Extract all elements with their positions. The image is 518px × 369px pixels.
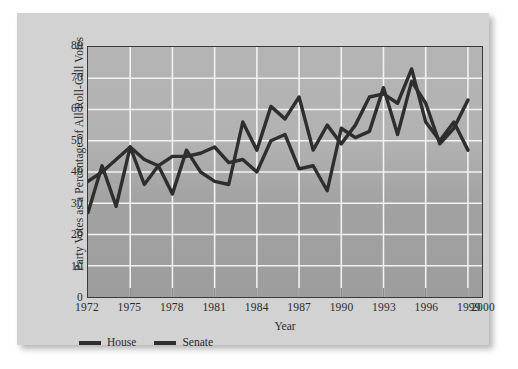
legend-line-swatch-icon <box>79 341 101 345</box>
x-tick-label: 1984 <box>245 302 269 314</box>
data-series-layer <box>88 47 482 297</box>
x-tick-label: 1972 <box>75 302 99 314</box>
x-tick-label: 1990 <box>330 302 354 314</box>
y-tick-label: 50 <box>49 135 83 147</box>
x-axis-title: Year <box>87 320 483 332</box>
chart-legend: HouseSenate <box>79 337 213 349</box>
x-tick-label: 2000 <box>471 302 495 314</box>
y-tick-label: 40 <box>49 166 83 178</box>
legend-item-senate: Senate <box>154 337 213 349</box>
x-tick-label: 1981 <box>202 302 226 314</box>
plot-area <box>87 46 483 298</box>
legend-item-house: House <box>79 337 136 349</box>
y-tick-label: 80 <box>49 40 83 52</box>
y-tick-label: 60 <box>49 103 83 115</box>
x-tick-label: 1993 <box>372 302 396 314</box>
y-tick-label: 20 <box>49 229 83 241</box>
figure-root: Party Votes as a Percentage of All Roll-… <box>0 0 518 369</box>
figure-card: Party Votes as a Percentage of All Roll-… <box>17 13 489 345</box>
y-tick-label: 10 <box>49 261 83 273</box>
x-axis-tick-labels: 1972197519781981198419871990199319961999… <box>87 302 507 320</box>
legend-label: House <box>107 337 136 349</box>
x-tick-label: 1996 <box>415 302 439 314</box>
series-line-senate <box>88 81 468 190</box>
legend-label: Senate <box>182 337 213 349</box>
x-tick-label: 1987 <box>287 302 311 314</box>
y-tick-label: 30 <box>49 198 83 210</box>
x-tick-label: 1978 <box>160 302 184 314</box>
x-tick-label: 1975 <box>118 302 142 314</box>
y-tick-label: 70 <box>49 72 83 84</box>
legend-line-swatch-icon <box>154 341 176 345</box>
y-axis-tick-labels: 01020304050607080 <box>47 46 83 298</box>
